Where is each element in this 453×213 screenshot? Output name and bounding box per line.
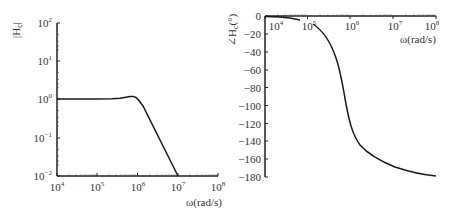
svg-text:101: 101 (38, 54, 53, 67)
phase-curve (313, 24, 436, 176)
svg-text:−80: −80 (244, 82, 262, 94)
svg-text:−100: −100 (238, 100, 261, 112)
phase-y-tick-labels: 0 −20 −40 −60 −80 −100 −120 −140 −160 −1… (238, 10, 261, 183)
svg-text:106: 106 (131, 180, 146, 193)
svg-text:104: 104 (50, 180, 65, 193)
svg-text:100: 100 (38, 92, 53, 105)
magnitude-y-tick-labels: 102 101 100 10−1 10−2 (34, 16, 53, 182)
svg-text:102: 102 (38, 16, 53, 29)
svg-text:107: 107 (388, 19, 403, 32)
phase-ylabel: ∠Hc(°) (226, 13, 240, 46)
svg-text:10−1: 10−1 (34, 131, 53, 144)
magnitude-x-tick-labels: 104 105 106 107 108 (50, 180, 226, 193)
phase-x-tick-labels: 104 105 106 107 108 (269, 19, 440, 32)
magnitude-ylabel: |Hc| (10, 22, 24, 38)
svg-text:−60: −60 (244, 64, 262, 76)
svg-text:108: 108 (425, 19, 440, 32)
svg-text:0: 0 (256, 10, 262, 22)
bode-plot-figure: |Hc| (0, 0, 453, 213)
magnitude-curve (57, 96, 178, 176)
svg-text:−120: −120 (238, 118, 261, 130)
phase-xlabel: ω(rad/s) (400, 33, 436, 46)
svg-text:−40: −40 (244, 46, 262, 58)
svg-text:108: 108 (211, 180, 226, 193)
magnitude-xlabel: ω(rad/s) (186, 196, 222, 209)
svg-text:−140: −140 (238, 135, 261, 147)
svg-text:107: 107 (171, 180, 186, 193)
svg-text:105: 105 (90, 180, 105, 193)
svg-text:−180: −180 (238, 171, 261, 183)
svg-text:106: 106 (345, 19, 360, 32)
svg-text:−160: −160 (238, 153, 261, 165)
phase-plot: ∠Hc(°) (226, 10, 440, 183)
svg-text:104: 104 (269, 19, 284, 32)
magnitude-plot: |Hc| (10, 16, 226, 209)
svg-text:−20: −20 (244, 28, 262, 40)
